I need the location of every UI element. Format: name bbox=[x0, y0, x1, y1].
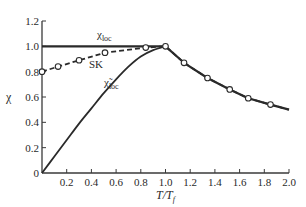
x-axis-title: T/Tf bbox=[156, 188, 177, 204]
x-tick-label: 1.6 bbox=[233, 176, 247, 188]
data-point-marker bbox=[76, 57, 82, 63]
data-point-marker bbox=[245, 95, 251, 101]
data-point-marker bbox=[55, 64, 61, 70]
y-tick-label: 1.2 bbox=[25, 15, 39, 27]
data-point-marker bbox=[205, 75, 211, 81]
data-point-marker bbox=[227, 87, 233, 93]
x-tick-label: 0.4 bbox=[85, 176, 99, 188]
data-point-marker bbox=[143, 45, 149, 51]
y-tick-label: 0.2 bbox=[25, 142, 39, 154]
x-tick-label: 0.2 bbox=[60, 176, 74, 188]
data-point-marker bbox=[39, 69, 45, 75]
x-tick-label: 1.4 bbox=[208, 176, 222, 188]
data-point-marker bbox=[181, 60, 187, 66]
chart: 00.20.40.60.81.01.20.20.40.60.81.01.21.4… bbox=[0, 0, 306, 207]
x-tick-label: 2.0 bbox=[282, 176, 296, 188]
x-tick-label: 1.0 bbox=[159, 176, 173, 188]
data-point-marker bbox=[163, 44, 169, 50]
x-tick-label: 1.2 bbox=[183, 176, 197, 188]
y-tick-label: 1.0 bbox=[25, 40, 39, 52]
markers-layer bbox=[39, 44, 273, 108]
y-tick-label: 0 bbox=[34, 167, 40, 179]
series-loc-line bbox=[42, 46, 289, 109]
sk-label: SK bbox=[89, 58, 103, 70]
y-axis-title: χ bbox=[5, 90, 12, 104]
x-tick-label: 0.8 bbox=[134, 176, 148, 188]
y-tick-label: 0.8 bbox=[25, 66, 39, 78]
y-tick-label: 0.6 bbox=[25, 91, 39, 103]
x-tick-label: 1.8 bbox=[257, 176, 271, 188]
data-point-marker bbox=[268, 102, 274, 108]
series-layer bbox=[42, 46, 289, 173]
data-point-marker bbox=[102, 50, 108, 56]
chi-loc-label: χloc bbox=[96, 28, 112, 43]
y-tick-label: 0.4 bbox=[25, 116, 39, 128]
x-tick-label: 0.6 bbox=[109, 176, 123, 188]
